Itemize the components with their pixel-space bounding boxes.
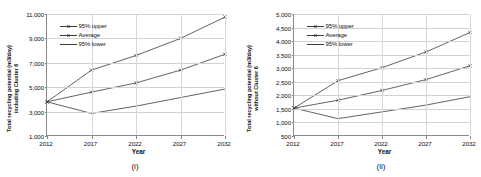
legend-marker-icon: [60, 39, 77, 48]
y-tick-mark: [292, 55, 295, 56]
y-tick-mark: [292, 109, 295, 110]
x-tick-label: 2022: [128, 140, 141, 147]
legend-label: 95% lower: [79, 41, 106, 47]
legend-marker-icon: [307, 21, 324, 30]
x-tick-mark: [47, 136, 48, 139]
legend-ii: 95% upperAverage95% lower: [307, 21, 354, 48]
vertical-gridline: [426, 14, 427, 135]
legend-label: 95% upper: [79, 23, 107, 29]
x-tick-label: 2032: [217, 140, 230, 147]
x-axis-title-i: Year: [132, 148, 146, 155]
x-tick-mark: [225, 136, 226, 139]
vertical-gridline: [225, 14, 226, 135]
y-tick-mark: [292, 122, 295, 123]
y-tick-mark: [292, 28, 295, 29]
x-tick-mark: [92, 136, 93, 139]
y-tick-label: 7,000: [29, 59, 44, 66]
x-tick-mark: [294, 136, 295, 139]
y-tick-mark: [292, 82, 295, 83]
y-tick-label: 500: [281, 133, 291, 140]
y-tick-label: 1,000: [29, 133, 44, 140]
legend-item: 95% lower: [60, 39, 107, 48]
chart-panel-i: Total recycling potential (m3/day) inclu…: [0, 0, 240, 177]
y-axis-ticks-i: 1,0003,0005,0007,0009,00011,000: [6, 14, 44, 136]
y-tick-label: 1,000: [276, 119, 291, 126]
x-tick-label: 2012: [286, 140, 299, 147]
y-tick-label: 3,000: [29, 108, 44, 115]
panel-label-ii: (ii): [377, 162, 386, 171]
legend-item: Average: [307, 30, 354, 39]
legend-label: Average: [326, 32, 348, 38]
y-tick-label: 2,500: [276, 78, 291, 85]
y-tick-label: 9,000: [29, 35, 44, 42]
vertical-gridline: [470, 14, 471, 135]
x-tick-label: 2017: [330, 140, 343, 147]
y-tick-mark: [292, 41, 295, 42]
x-tick-label: 2012: [39, 140, 52, 147]
y-tick-mark: [45, 63, 48, 64]
x-tick-label: 2027: [418, 140, 431, 147]
y-axis-ticks-ii: 5001,0001,5002,0002,5003,0003,5004,0004,…: [250, 14, 291, 136]
y-tick-mark: [45, 87, 48, 88]
x-tick-mark: [136, 136, 137, 139]
legend-i: 95% upperAverage95% lower: [60, 21, 107, 48]
y-tick-label: 5,000: [29, 84, 44, 91]
y-tick-label: 1,500: [276, 105, 291, 112]
y-tick-label: 3,000: [276, 65, 291, 72]
legend-item: 95% lower: [307, 39, 354, 48]
y-tick-mark: [45, 112, 48, 113]
x-tick-mark: [426, 136, 427, 139]
y-tick-label: 3,500: [276, 51, 291, 58]
legend-marker-icon: [307, 30, 324, 39]
legend-item: 95% upper: [60, 21, 107, 30]
legend-label: 95% upper: [326, 23, 354, 29]
y-tick-label: 5,000: [276, 11, 291, 18]
y-tick-label: 4,500: [276, 24, 291, 31]
legend-marker-icon: [307, 39, 324, 48]
legend-item: Average: [60, 30, 107, 39]
x-tick-mark: [470, 136, 471, 139]
legend-item: 95% upper: [307, 21, 354, 30]
legend-label: Average: [79, 32, 101, 38]
y-tick-mark: [292, 14, 295, 15]
x-tick-label: 2017: [84, 140, 97, 147]
y-tick-label: 2,000: [276, 92, 291, 99]
y-tick-label: 11,000: [26, 11, 44, 18]
figure-container: Total recycling potential (m3/day) inclu…: [0, 0, 481, 177]
y-tick-label: 4,000: [276, 38, 291, 45]
legend-label: 95% lower: [326, 41, 353, 47]
chart-panel-ii: Total recycling potential (m3/day) witho…: [240, 0, 481, 177]
y-tick-mark: [292, 68, 295, 69]
legend-marker-icon: [60, 21, 77, 30]
legend-marker-icon: [60, 30, 77, 39]
x-tick-mark: [382, 136, 383, 139]
x-tick-mark: [181, 136, 182, 139]
x-tick-label: 2032: [462, 140, 475, 147]
x-axis-title-ii: Year: [378, 148, 392, 155]
panel-label-i: (i): [131, 162, 138, 171]
x-tick-mark: [338, 136, 339, 139]
x-tick-label: 2022: [374, 140, 387, 147]
vertical-gridline: [181, 14, 182, 135]
vertical-gridline: [382, 14, 383, 135]
y-tick-mark: [292, 95, 295, 96]
x-tick-label: 2027: [173, 140, 186, 147]
y-tick-mark: [45, 14, 48, 15]
vertical-gridline: [136, 14, 137, 135]
y-tick-mark: [45, 38, 48, 39]
